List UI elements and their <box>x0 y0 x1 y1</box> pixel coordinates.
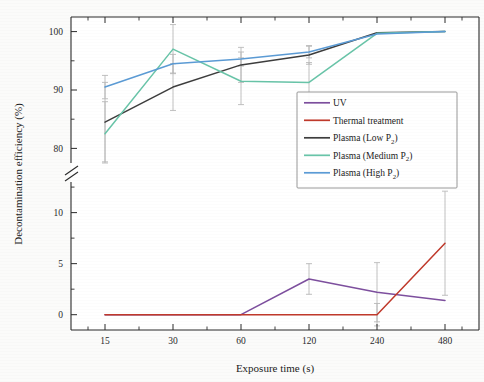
x-tick-label: 120 <box>302 336 317 346</box>
legend-label: Thermal treatment <box>333 116 404 126</box>
chart-figure: 80901000510 153060120240480 Decontaminat… <box>0 0 484 382</box>
legend-label: Plasma (Low P2) <box>333 133 398 145</box>
chart-legend: UVThermal treatmentPlasma (Low P2)Plasma… <box>297 92 457 188</box>
y-tick-label: 0 <box>58 310 63 320</box>
decontamination-efficiency-chart: 80901000510 153060120240480 Decontaminat… <box>0 0 484 382</box>
y-tick-label: 10 <box>54 208 64 218</box>
x-tick-label: 60 <box>236 336 246 346</box>
legend-label: Plasma (High P2) <box>333 168 399 180</box>
y-tick-label: 80 <box>54 144 64 154</box>
x-axis-title: Exposure time (s) <box>236 362 315 375</box>
legend-label: UV <box>333 98 347 108</box>
y-tick-label: 90 <box>54 85 64 95</box>
y-tick-label: 5 <box>58 259 63 269</box>
legend-label: Plasma (Medium P2) <box>333 151 412 163</box>
x-tick-label: 15 <box>100 336 110 346</box>
y-tick-label: 100 <box>49 27 64 37</box>
x-tick-label: 30 <box>168 336 178 346</box>
x-tick-label: 240 <box>370 336 385 346</box>
y-axis-title: Decontamination efficiency (%) <box>12 103 25 245</box>
x-tick-label: 480 <box>438 336 453 346</box>
